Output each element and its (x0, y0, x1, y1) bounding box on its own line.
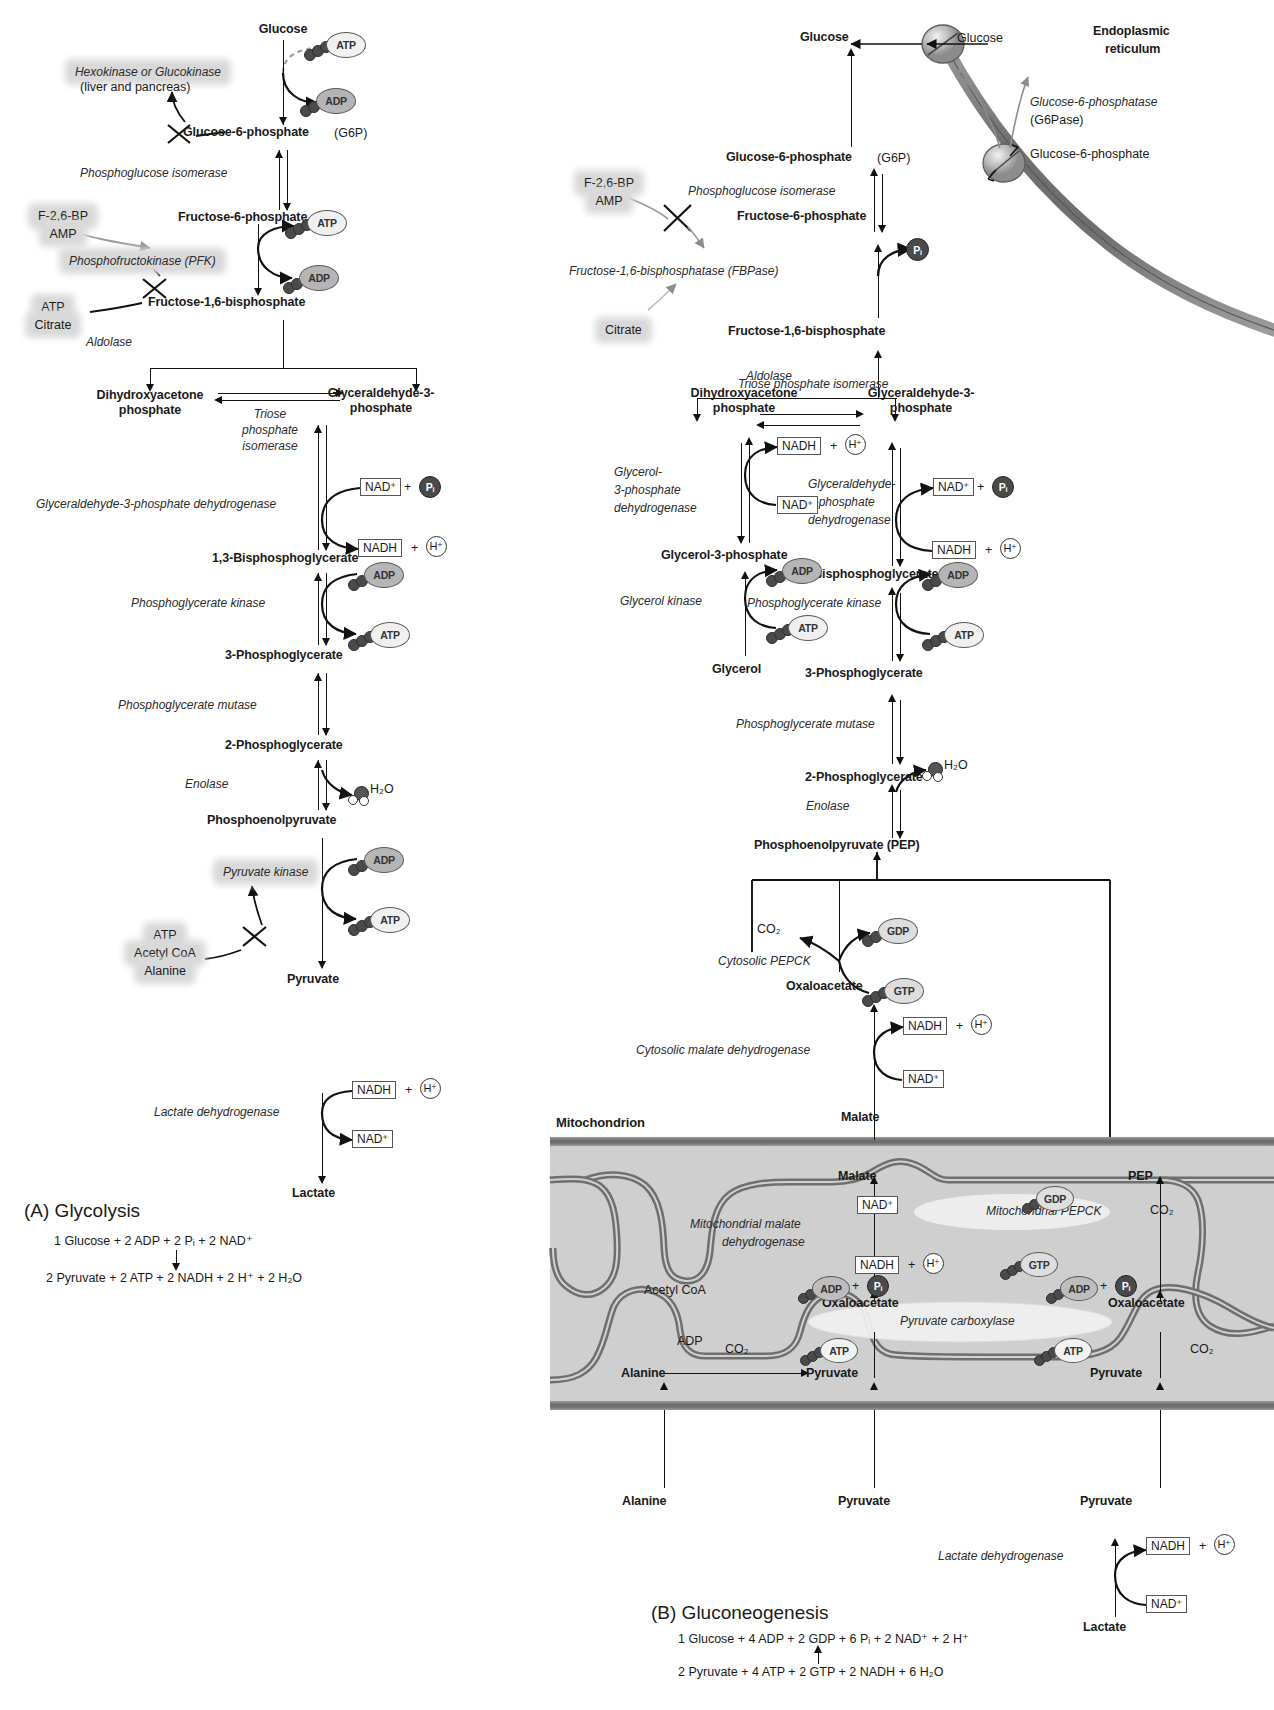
aldolase-split-bar (150, 368, 416, 369)
regulator-fbpase-inhibitors: F-2,6-BP (560, 173, 658, 191)
arrow-dhap-g3p-dn (749, 443, 750, 543)
arrowhead (318, 1176, 326, 1184)
plus-sign: + (830, 439, 837, 453)
arrowhead (888, 694, 896, 702)
regulator-pfk-inhibitors: ATP (8, 297, 98, 315)
arrow-g6p-f6p-rev (279, 150, 280, 210)
cofactor-pi-gapdh-b: Pᵢ (992, 476, 1014, 498)
enzyme-enolase: Enolase (185, 778, 228, 792)
arrow-f6p-g6p-rev (882, 174, 883, 232)
metabolite-glycerol: Glycerol (712, 662, 761, 676)
tpi-arrow-left-b (760, 425, 860, 426)
enzyme-mito-mdh-line1: Mitochondrial malate (690, 1218, 801, 1232)
enzyme-hexokinase-line1: Hexokinase or Glucokinase (70, 64, 226, 80)
arrow-g3p-bpg-fwd (326, 425, 327, 550)
enzyme-g6pase-abbrev: (G6Pase) (1030, 113, 1084, 127)
arrow-2pg-3pg-dn (900, 700, 901, 764)
arrowhead (279, 117, 287, 125)
metabolite-pyruvate-outside-right: Pyruvate (1080, 1494, 1132, 1508)
figure-canvas: Glucose Glucose-6-phosphate (G6P) Fructo… (0, 0, 1274, 1710)
arrow-pyruvate-in-right (1160, 1410, 1161, 1488)
arrowhead (314, 760, 322, 768)
cofactor-pi-pc-right: Pᵢ (1115, 1275, 1137, 1297)
cofactor-pi-gapdh: Pᵢ (419, 476, 441, 498)
arrowhead (660, 1382, 668, 1390)
enzyme-pgk-b: Phosphoglycerate kinase (747, 597, 881, 611)
cofactor-nad-ldh: NAD⁺ (352, 1130, 393, 1148)
arrowhead (856, 410, 864, 418)
arrow-pyruvate-to-oaa-mito-left (874, 1332, 875, 1378)
enzyme-cytosolic-mdh: Cytosolic malate dehydrogenase (636, 1044, 810, 1058)
tpi-arrow-right (218, 393, 340, 394)
arrow-pep-to-pyruvate (322, 838, 323, 968)
regulator-acetyl-coa: Acetyl CoA (644, 1283, 706, 1297)
panel-a-equation-bottom: 2 Pyruvate + 2 ATP + 2 NADH + 2 H⁺ + 2 H… (46, 1271, 302, 1285)
label-water: H₂O (370, 782, 394, 796)
cofactor-nad-gapdh-b: NAD⁺ (933, 478, 974, 496)
arrowhead (745, 437, 753, 445)
arrowhead (896, 654, 904, 662)
arrow-pyruvate-in-left (874, 1410, 875, 1488)
mito-metabolite-pep: PEP (1128, 1169, 1153, 1183)
metabolite-malate-cytosol: Malate (841, 1110, 879, 1124)
enzyme-tpi-line1: Triose (228, 408, 312, 422)
panel-a-equation-top: 1 Glucose + 2 ADP + 2 Pᵢ + 2 NAD⁺ (54, 1234, 253, 1248)
arrowhead (888, 442, 896, 450)
arrowhead (172, 1263, 180, 1271)
enzyme-tpi-line3: isomerase (228, 440, 312, 454)
tpi-arrow-left (218, 400, 340, 401)
label-co2-pc-right: CO₂ (1190, 1342, 1214, 1356)
metabolite-3pg-b: 3-Phosphoglycerate (805, 666, 923, 680)
arrow-f6p-to-fbp (258, 224, 259, 294)
metabolite-fbp: Fructose-1,6-bisphosphate (148, 295, 305, 309)
arrow-oaa-to-pep-cytosolic (839, 880, 840, 972)
enzyme-gapdh-b-line1: Glyceraldehyde- (808, 478, 895, 492)
g6p-abbrev: (G6P) (334, 126, 367, 140)
arrowhead (896, 757, 904, 765)
arrow-lactate-to-pyruvate (1115, 1545, 1116, 1617)
metabolite-g6p: Glucose-6-phosphate (183, 125, 309, 139)
mito-metabolite-pyruvate-left: Pyruvate (806, 1366, 858, 1380)
label-water-b: H₂O (944, 758, 968, 772)
arrow-pyruvate-to-oaa-mito-right (1160, 1332, 1161, 1378)
arrowhead (322, 543, 330, 551)
enzyme-pgm-b: Phosphoglycerate mutase (736, 718, 875, 732)
arrow-bpg-3pg-rev (318, 573, 319, 645)
plus-sign: + (977, 480, 984, 494)
metabolite-alanine-outside: Alanine (622, 1494, 666, 1508)
cofactor-hplus-cmdh: H⁺ (971, 1014, 992, 1035)
metabolite-pep-b: Phosphoenolpyruvate (PEP) (754, 838, 920, 852)
arrow-3pg-bpg-dn (900, 593, 901, 661)
metabolite-3pg: 3-Phosphoglycerate (225, 648, 343, 662)
mito-metabolite-oxaloacetate-right: Oxaloacetate (1108, 1296, 1185, 1310)
plus-sign: + (1100, 1279, 1107, 1293)
enzyme-pyruvate-kinase: Pyruvate kinase (218, 862, 313, 880)
metabolite-f6p-b: Fructose-6-phosphate (737, 209, 866, 223)
plus-sign: + (405, 1083, 412, 1097)
enzyme-pfk: Phosphofructokinase (PFK) (64, 251, 221, 269)
metabolite-g3p: Glyceraldehyde-3-phosphate (326, 386, 436, 416)
label-co2-pc-left: CO₂ (725, 1342, 749, 1356)
cofactor-nadh-gapdh: NADH (358, 539, 402, 557)
arrow-f6p-g6p-fwd (874, 174, 875, 232)
arrowhead (322, 803, 330, 811)
arrow-glucose-to-g6p (283, 40, 284, 125)
arrowhead (874, 244, 882, 252)
er-g6p-lumen: Glucose-6-phosphate (1030, 147, 1150, 161)
cofactor-nadh-cmdh: NADH (903, 1017, 947, 1035)
metabolite-13bpg: 1,3-Bisphosphoglycerate (212, 551, 358, 565)
metabolite-fbp-b: Fructose-1,6-bisphosphate (728, 324, 885, 338)
enzyme-g3pdh-line1: Glycerol- (614, 466, 662, 480)
plus-sign: + (985, 543, 992, 557)
mitochondrion (550, 1146, 1274, 1402)
arrow-2pg-3pg-up (892, 700, 893, 764)
arrowhead (741, 571, 749, 579)
cofactor-hplus-gapdh: H⁺ (426, 536, 447, 557)
arrow-alanine-in (664, 1410, 665, 1488)
cofactor-nad-g3pdh: NAD⁺ (777, 496, 818, 514)
enzyme-ldh: Lactate dehydrogenase (154, 1106, 279, 1120)
cofactor-hplus-mito-mdh: H⁺ (923, 1253, 944, 1274)
enzyme-glycerol-kinase: Glycerol kinase (620, 595, 702, 609)
arrow-3pg-bpg-up (892, 593, 893, 661)
arrow-pep-2pg-up (892, 790, 893, 838)
